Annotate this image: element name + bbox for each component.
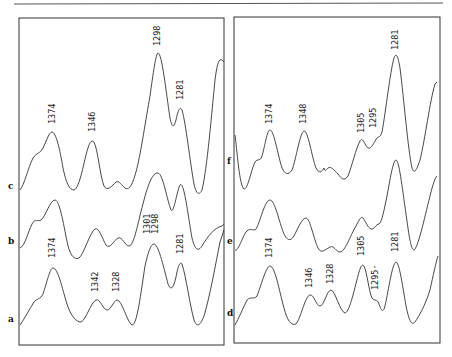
spectra-figure: c b a 1374 1346 1298 1281 1374 1342 1328… xyxy=(0,0,452,357)
peak-label-f-1305: 1305 xyxy=(356,113,366,133)
trace-label-c: c xyxy=(8,181,14,191)
trace-label-b: b xyxy=(8,236,14,246)
peak-label-a-1298: 1298 xyxy=(150,214,160,234)
right-panel: f e d 1374 1348 1305 1295 1281 1374 1305… xyxy=(227,17,440,343)
peak-label-c-1298: 1298 xyxy=(152,26,162,46)
peak-label-a-1374: 1374 xyxy=(47,238,57,258)
peak-label-f-1281: 1281 xyxy=(390,30,400,50)
trace-label-e: e xyxy=(227,236,233,246)
peak-label-c-1374: 1374 xyxy=(47,104,57,124)
peak-label-c-1346: 1346 xyxy=(87,112,97,132)
peak-label-a-1342: 1342 xyxy=(90,272,100,292)
trace-label-a: a xyxy=(8,314,14,324)
right-panel-frame xyxy=(234,17,440,343)
peak-label-d-1346: 1346 xyxy=(304,268,314,288)
peak-label-e-1305: 1305 xyxy=(356,236,366,256)
peak-label-f-1295: 1295 xyxy=(368,108,378,128)
trace-label-f: f xyxy=(227,156,232,166)
trace-d xyxy=(235,256,438,325)
peak-label-d-1328: 1328 xyxy=(325,264,335,284)
peak-label-f-1348: 1348 xyxy=(298,104,308,124)
left-panel: c b a 1374 1346 1298 1281 1374 1342 1328… xyxy=(8,18,224,345)
peak-label-a-1328: 1328 xyxy=(111,272,121,292)
peak-label-e-1374: 1374 xyxy=(264,238,274,258)
trace-label-d: d xyxy=(227,308,234,318)
top-rule xyxy=(14,3,443,4)
peak-label-a-1281: 1281 xyxy=(175,234,185,254)
peak-label-c-1281: 1281 xyxy=(175,80,185,100)
peak-label-e-1281: 1281 xyxy=(390,232,400,252)
peak-label-f-1374: 1374 xyxy=(264,104,274,124)
peak-label-d-1295: 1295· xyxy=(370,264,380,290)
